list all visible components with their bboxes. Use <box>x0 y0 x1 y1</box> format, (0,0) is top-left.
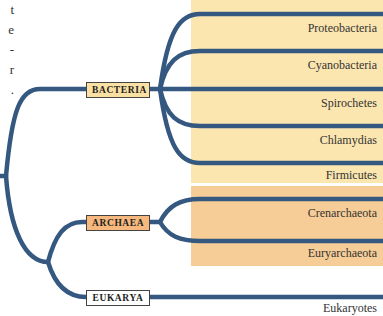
leaf-label-spirochetes: Spirochetes <box>321 96 377 111</box>
domain-label-bacteria: BACTERIA <box>86 82 150 98</box>
euryarchaeota-branch <box>160 222 383 241</box>
leaf-label-chlamydias: Chlamydias <box>320 133 377 148</box>
domain-label-eukarya: EUKARYA <box>86 290 150 306</box>
leaf-label-eukaryotes: Eukaryotes <box>323 301 377 316</box>
leaf-label-cyanobacteria: Cyanobacteria <box>308 58 377 73</box>
leaf-label-proteobacteria: Proteobacteria <box>308 21 377 36</box>
leaf-label-euryarchaeota: Euryarchaeota <box>308 246 377 261</box>
bacteria-lineage-branch <box>6 89 86 176</box>
domain-label-archaea: ARCHAEA <box>86 215 150 231</box>
leaf-label-crenarchaeota: Crenarchaeota <box>308 206 377 221</box>
eukarya-lineage-branch <box>48 262 86 297</box>
leaf-label-firmicutes: Firmicutes <box>326 168 377 183</box>
archaea-lineage-branch <box>48 222 86 262</box>
neomura-branch <box>6 176 48 262</box>
